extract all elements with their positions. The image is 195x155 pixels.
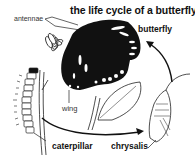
antennae-icon [45,17,80,30]
arrow-to-butterfly-icon [146,41,172,82]
label-wing: wing [62,104,77,113]
caterpillar-icon [13,68,38,133]
stem-icon [39,70,48,155]
leaf-icon [88,82,141,130]
label-antennae: antennae [14,15,43,22]
label-butterfly: butterfly [138,24,172,34]
label-chrysalis: chrysalis [111,141,148,151]
chrysalis-icon [149,74,190,142]
daisy-flower-icon [44,32,63,51]
label-caterpillar: caterpillar [52,141,93,151]
chrysalis-pointer [148,140,156,148]
diagram-title: the life cycle of a butterfly [70,4,195,16]
butterfly-icon [61,20,140,90]
